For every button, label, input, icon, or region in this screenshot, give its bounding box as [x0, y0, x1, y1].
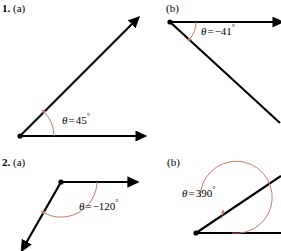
angle-value-1a: 45: [76, 114, 87, 126]
problem-2-part-b-label-wrap: (b): [167, 157, 180, 168]
problem-2-part-a-label: (a): [13, 156, 25, 168]
angle-arc-1a: [44, 112, 54, 136]
angle-value-1b: −41: [215, 25, 232, 37]
angle-arc-1b: [190, 22, 196, 39]
problem-1-part-b-label: (b): [166, 2, 179, 14]
angle-label-1a: θ=45°: [62, 113, 90, 126]
angle-label-2a: θ=−120°: [79, 199, 119, 212]
problem-1-part-a-label: (a): [13, 2, 25, 14]
problem-2-label: 2. (a): [2, 157, 25, 168]
degree-symbol-1b: °: [232, 23, 235, 32]
terminal-ray-1b: [170, 22, 280, 123]
degree-symbol-2b: °: [212, 185, 215, 194]
angle-label-2b: θ=390°: [182, 186, 215, 199]
equals-sign-2a: =: [84, 200, 92, 212]
problem-1-number: 1.: [2, 2, 10, 14]
problem-1-label: 1. (a): [2, 3, 25, 14]
equals-sign-2b: =: [187, 187, 195, 199]
angles-figure-canvas: [0, 0, 281, 251]
equals-sign-1b: =: [206, 25, 214, 37]
terminal-ray-2a: [26, 182, 62, 244]
problem-1-part-b-label-wrap: (b): [166, 3, 179, 14]
angle-value-2b: 390: [196, 187, 213, 199]
angle-value-2a: −120: [93, 200, 116, 212]
problem-2-number: 2.: [2, 156, 10, 168]
terminal-ray-2b: [196, 176, 281, 233]
degree-symbol-2a: °: [115, 198, 118, 207]
diagram-2a: [26, 179, 131, 244]
problem-2-part-b-label: (b): [167, 156, 180, 168]
degree-symbol-1a: °: [87, 112, 90, 121]
equals-sign-1a: =: [67, 114, 75, 126]
angle-label-1b: θ=−41°: [201, 24, 235, 37]
